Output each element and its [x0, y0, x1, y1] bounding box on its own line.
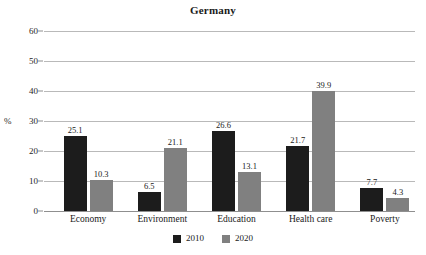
x-tick-label: Education [217, 214, 256, 224]
bar-2010-economy[interactable] [64, 136, 87, 211]
y-tick-mark [38, 61, 43, 62]
bar-group: 21.739.9 [286, 31, 335, 211]
bar-2020-environment[interactable] [164, 148, 187, 211]
plot-area: 25.110.36.521.126.613.121.739.97.74.3 [44, 31, 415, 211]
y-tick-label: 0 [0, 207, 38, 216]
bar-value-label: 21.1 [168, 138, 183, 147]
legend-item-2020[interactable]: 2020 [222, 234, 253, 243]
bar-value-label: 4.3 [393, 188, 404, 197]
bar-2010-education[interactable] [212, 131, 235, 211]
x-tick-label: Economy [70, 214, 106, 224]
axis-baseline [44, 211, 415, 212]
y-tick-label: 20 [0, 147, 38, 156]
legend-label: 2020 [235, 234, 253, 243]
chart-legend: 20102020 [0, 234, 426, 243]
y-tick-label: 60 [0, 27, 38, 36]
y-tick-mark [38, 151, 43, 152]
bar-2010-health-care[interactable] [286, 146, 309, 211]
y-tick-mark [38, 121, 43, 122]
legend-swatch-icon [173, 235, 181, 243]
bar-2020-poverty[interactable] [386, 198, 409, 211]
legend-item-2010[interactable]: 2010 [173, 234, 204, 243]
x-tick-label: Health care [289, 214, 333, 224]
legend-swatch-icon [222, 235, 230, 243]
bar-value-label: 10.3 [94, 170, 109, 179]
y-tick-mark [38, 91, 43, 92]
chart-title: Germany [0, 4, 426, 16]
y-axis-labels: 0102030405060 [0, 31, 38, 211]
bar-value-label: 6.5 [144, 182, 155, 191]
y-tick-mark [38, 181, 43, 182]
x-tick-label: Poverty [370, 214, 400, 224]
y-tick-label: 40 [0, 87, 38, 96]
bar-value-label: 26.6 [216, 121, 231, 130]
bar-value-label: 25.1 [68, 126, 83, 135]
y-tick-label: 30 [0, 117, 38, 126]
bar-value-label: 21.7 [290, 136, 305, 145]
bar-2020-education[interactable] [238, 172, 261, 211]
legend-label: 2010 [186, 234, 204, 243]
bar-2010-poverty[interactable] [360, 188, 383, 211]
y-tick-label: 10 [0, 177, 38, 186]
chart-container: Germany % 0102030405060 25.110.36.521.12… [0, 0, 426, 255]
bar-2020-economy[interactable] [90, 180, 113, 211]
bar-group: 25.110.3 [64, 31, 113, 211]
bar-group: 6.521.1 [138, 31, 187, 211]
bar-value-label: 39.9 [316, 81, 331, 90]
bar-value-label: 7.7 [367, 178, 378, 187]
bar-group: 26.613.1 [212, 31, 261, 211]
bar-2020-health-care[interactable] [312, 91, 335, 211]
bar-group: 7.74.3 [360, 31, 409, 211]
y-tick-mark [38, 211, 43, 212]
bar-value-label: 13.1 [242, 162, 257, 171]
y-tick-mark [38, 31, 43, 32]
x-tick-label: Environment [137, 214, 187, 224]
bar-2010-environment[interactable] [138, 192, 161, 212]
y-tick-label: 50 [0, 57, 38, 66]
